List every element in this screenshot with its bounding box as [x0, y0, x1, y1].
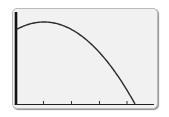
- graph-plot: [0, 0, 169, 117]
- x-tick-marks: [44, 101, 128, 104]
- parabola-curve: [16, 22, 135, 104]
